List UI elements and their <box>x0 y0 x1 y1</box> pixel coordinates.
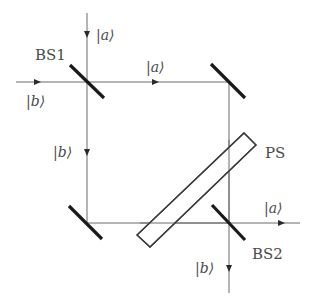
arrow-output-right <box>278 220 285 226</box>
arrow-upper-path <box>152 79 159 85</box>
input-top-ket-label: |a⟩ <box>96 28 115 42</box>
upper-path-ket-label: |a⟩ <box>146 60 165 74</box>
arrow-left-path <box>84 149 90 156</box>
bs1-label: BS1 <box>35 48 66 63</box>
arrow-output-bottom <box>226 265 232 272</box>
input-left-ket-label: |b⟩ <box>26 94 45 108</box>
output-right-ket-label: |a⟩ <box>264 201 283 215</box>
output-bottom-ket-label: |b⟩ <box>195 261 214 275</box>
mirror-top-right <box>211 64 245 98</box>
arrow-input-left <box>34 79 41 85</box>
ps-label: PS <box>265 146 285 161</box>
arrow-input-top <box>84 31 90 38</box>
interferometer-diagram: BS1 PS BS2 |a⟩ |b⟩ |a⟩ |b⟩ |a⟩ |b⟩ <box>0 0 317 297</box>
bs2-label: BS2 <box>252 247 283 262</box>
phase-shifter-plate <box>137 133 256 247</box>
left-path-ket-label: |b⟩ <box>53 145 72 159</box>
